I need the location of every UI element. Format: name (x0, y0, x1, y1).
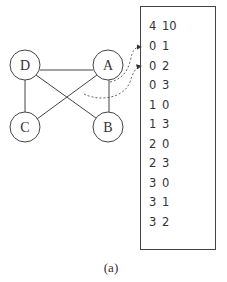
graph-diagram: D A C B 4 10 0 1 0 2 0 3 1 0 1 3 2 0 2 3… (0, 0, 227, 282)
row-2-b: 2 (162, 59, 169, 73)
row-2-a: 0 (149, 59, 156, 73)
node-a: A (93, 50, 123, 80)
node-b: B (93, 112, 123, 142)
row-0-b: 10 (162, 19, 177, 33)
node-d-label: D (20, 58, 30, 73)
edge-d-b (36, 75, 96, 118)
row-10-b: 2 (162, 215, 169, 229)
row-0-a: 4 (149, 19, 156, 33)
node-c-label: C (20, 120, 29, 135)
graph-edges (25, 70, 109, 119)
row-8-b: 0 (162, 176, 169, 190)
row-6-a: 2 (149, 137, 156, 151)
row-4-b: 0 (162, 98, 169, 112)
row-5-a: 1 (149, 117, 156, 131)
figure-caption: (a) (104, 260, 118, 275)
node-a-label: A (103, 58, 114, 73)
row-9-b: 1 (162, 195, 169, 209)
row-1-b: 1 (162, 39, 169, 53)
node-d: D (10, 50, 40, 80)
row-6-b: 0 (162, 137, 169, 151)
row-10-a: 3 (149, 215, 156, 229)
node-c: C (10, 112, 40, 142)
edge-list-rows: 4 10 0 1 0 2 0 3 1 0 1 3 2 0 2 3 3 0 3 1… (149, 19, 177, 229)
row-4-a: 1 (149, 98, 156, 112)
row-3-a: 0 (149, 78, 156, 92)
row-5-b: 3 (162, 117, 169, 131)
row-7-b: 3 (162, 156, 169, 170)
row-3-b: 3 (162, 78, 169, 92)
node-b-label: B (103, 120, 112, 135)
row-1-a: 0 (149, 39, 156, 53)
row-8-a: 3 (149, 176, 156, 190)
row-9-a: 3 (149, 195, 156, 209)
row-7-a: 2 (149, 156, 156, 170)
